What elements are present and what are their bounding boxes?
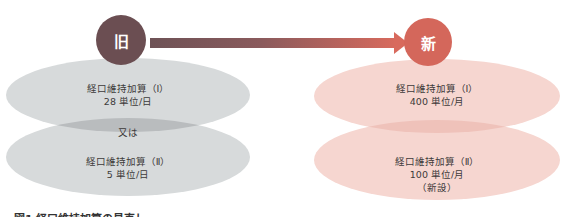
new-top-text: 経口維持加算（Ⅰ） 400 単位/月 bbox=[357, 82, 517, 108]
new-top-value: 400 単位/月 bbox=[357, 95, 517, 108]
diagram-canvas: 旧 新 経口維持加算（Ⅰ） 28 単位/日 又は 経口維持加算（Ⅱ） 5 単位/… bbox=[0, 0, 569, 217]
new-badge-label: 新 bbox=[404, 32, 452, 53]
new-bottom-name: 経口維持加算（Ⅱ） bbox=[357, 155, 517, 168]
old-top-value: 28 単位/日 bbox=[48, 95, 208, 108]
old-connector-text: 又は bbox=[48, 126, 208, 139]
old-top-text: 経口維持加算（Ⅰ） 28 単位/日 bbox=[48, 82, 208, 108]
new-bottom-value: 100 単位/月 bbox=[357, 168, 517, 181]
new-bottom-note: （新設） bbox=[357, 181, 517, 194]
new-top-name: 経口維持加算（Ⅰ） bbox=[357, 82, 517, 95]
old-bottom-value: 5 単位/日 bbox=[48, 168, 208, 181]
old-top-name: 経口維持加算（Ⅰ） bbox=[48, 82, 208, 95]
old-badge-label: 旧 bbox=[96, 30, 146, 51]
arrow-icon bbox=[150, 32, 408, 54]
old-bottom-name: 経口維持加算（Ⅱ） bbox=[48, 155, 208, 168]
figure-caption: 図1 経口維持加算の見直し bbox=[14, 210, 146, 217]
new-bottom-text: 経口維持加算（Ⅱ） 100 単位/月 （新設） bbox=[357, 155, 517, 194]
old-bottom-text: 経口維持加算（Ⅱ） 5 単位/日 bbox=[48, 155, 208, 181]
